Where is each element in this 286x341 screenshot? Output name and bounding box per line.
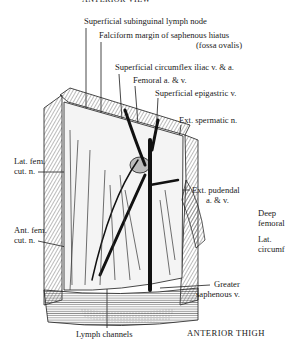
thigh-anatomy-illustration	[0, 0, 286, 341]
